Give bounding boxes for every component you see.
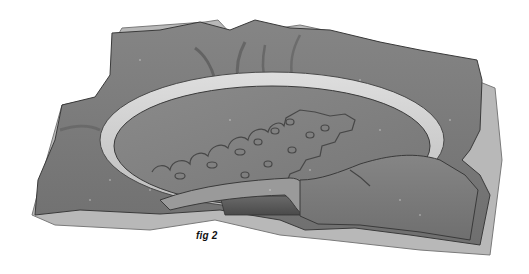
figure-caption: fig 2	[196, 230, 218, 241]
embroidery-hoop-illustration	[0, 0, 529, 274]
